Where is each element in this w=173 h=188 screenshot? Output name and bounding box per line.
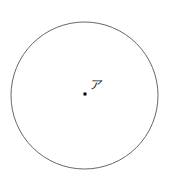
center-point-label: ア <box>89 79 101 91</box>
center-dot <box>84 93 87 96</box>
geometry-figure: ア <box>0 0 173 188</box>
figure-canvas <box>0 0 173 188</box>
